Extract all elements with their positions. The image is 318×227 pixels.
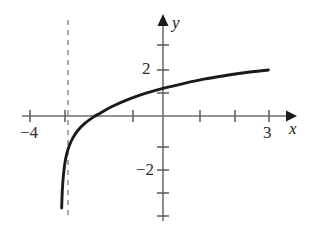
x-tick-label--4: −4: [20, 124, 38, 141]
y-tick-label-2: 2: [142, 60, 151, 77]
graph-figure: x y −4 3 2 −2: [0, 0, 318, 227]
coordinate-plot: [0, 0, 318, 227]
logarithmic-curve: [62, 70, 269, 208]
x-axis-label: x: [289, 120, 297, 137]
y-tick-label--2: −2: [136, 161, 154, 178]
y-axis-arrowhead: [158, 14, 169, 26]
x-tick-label-3: 3: [263, 124, 272, 141]
y-axis-label: y: [172, 14, 180, 31]
